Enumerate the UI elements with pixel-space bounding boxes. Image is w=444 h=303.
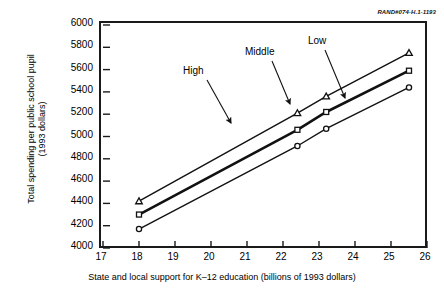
marker-low-2 xyxy=(324,126,329,131)
series-line-middle xyxy=(139,71,409,215)
x-tick-label: 25 xyxy=(377,252,401,262)
x-tick-label: 23 xyxy=(305,252,329,262)
plot-svg xyxy=(101,23,429,250)
marker-high-2 xyxy=(323,93,330,99)
marker-middle-3 xyxy=(407,68,412,73)
y-tick-label: 6000 xyxy=(47,18,93,28)
report-identifier-tag: RAND#074-H.1-1193 xyxy=(377,9,436,15)
marker-high-1 xyxy=(294,110,301,116)
y-tick-label: 5800 xyxy=(47,40,93,50)
x-tick-label: 21 xyxy=(233,252,257,262)
y-tick-label: 4200 xyxy=(47,219,93,229)
series-low xyxy=(136,85,411,232)
y-tick-label: 4000 xyxy=(47,241,93,251)
y-tick-label: 4400 xyxy=(47,196,93,206)
y-tick-label: 5600 xyxy=(47,63,93,73)
x-tick-label: 26 xyxy=(413,252,437,262)
y-tick-label: 4600 xyxy=(47,174,93,184)
y-axis-title-line-1: Total spending per public school pupil xyxy=(26,9,37,249)
y-tick-label: 5000 xyxy=(47,130,93,140)
annotation-label-low: Low xyxy=(308,36,326,46)
x-tick-label: 17 xyxy=(89,252,113,262)
marker-middle-0 xyxy=(137,212,142,217)
marker-high-0 xyxy=(136,198,143,204)
marker-low-0 xyxy=(136,226,141,231)
marker-high-3 xyxy=(406,50,413,56)
marker-low-1 xyxy=(295,143,300,148)
marker-middle-1 xyxy=(295,127,300,132)
x-tick-label: 18 xyxy=(125,252,149,262)
x-tick-label: 19 xyxy=(161,252,185,262)
marker-low-3 xyxy=(406,85,411,90)
chart-figure: RAND#074-H.1-1193 Total spending per pub… xyxy=(0,0,444,303)
x-tick-label: 24 xyxy=(341,252,365,262)
x-axis-title: State and local support for K–12 educati… xyxy=(0,272,444,282)
y-tick-label: 5200 xyxy=(47,107,93,117)
annotation-label-high: High xyxy=(183,66,204,76)
series-line-high xyxy=(139,53,409,201)
annotation-label-middle: Middle xyxy=(245,47,274,57)
y-tick-label: 5400 xyxy=(47,85,93,95)
y-tick-label: 4800 xyxy=(47,152,93,162)
x-tick-label: 20 xyxy=(197,252,221,262)
series-middle xyxy=(137,68,412,217)
tick-marks xyxy=(103,25,427,248)
marker-middle-2 xyxy=(324,109,329,114)
series-line-low xyxy=(139,87,409,229)
y-axis-title: Total spending per public school pupil (… xyxy=(26,9,48,249)
x-tick-label: 22 xyxy=(269,252,293,262)
series-high xyxy=(136,50,413,204)
